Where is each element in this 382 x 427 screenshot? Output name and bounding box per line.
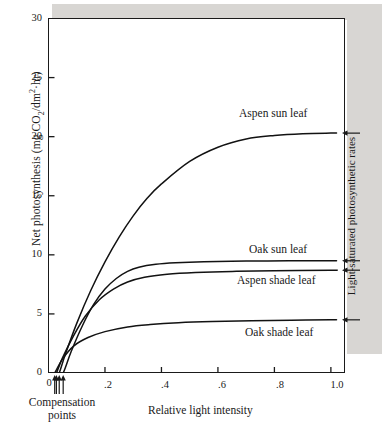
axis-ticks [49,78,331,373]
figure-light-response-curves: Net photosynthesis (mg CO2/dm2·hr) 30 25… [0,0,382,427]
chart-vector-overlay [0,0,382,427]
series-curves [49,133,338,404]
